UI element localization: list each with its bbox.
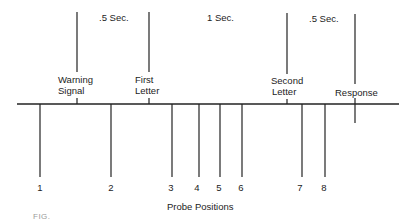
interval-label-1: .5 Sec.: [99, 12, 129, 23]
probe-label-1: 1: [37, 182, 42, 193]
figure-caption-fragment: FIG.: [33, 212, 51, 219]
timeline-lines: [0, 0, 415, 219]
probe-label-7: 7: [297, 182, 302, 193]
probe-label-8: 8: [321, 182, 326, 193]
timeline-diagram: .5 Sec. 1 Sec. .5 Sec. Warning Signal Fi…: [0, 0, 415, 219]
event-label-second-letter-line2: Letter: [272, 86, 296, 97]
event-label-response: Response: [335, 87, 378, 98]
event-label-first-letter-line2: Letter: [135, 85, 159, 96]
event-label-warning-line2: Signal: [58, 85, 84, 96]
event-label-first-letter-line1: First: [135, 74, 153, 85]
interval-label-2: 1 Sec.: [207, 12, 234, 23]
probe-label-3: 3: [168, 182, 173, 193]
probe-label-2: 2: [108, 182, 113, 193]
event-label-warning-line1: Warning: [58, 74, 93, 85]
probe-label-6: 6: [238, 182, 243, 193]
probe-label-4: 4: [194, 182, 199, 193]
probe-label-5: 5: [216, 182, 221, 193]
probe-positions-label: Probe Positions: [167, 201, 234, 212]
event-label-second-letter-line1: Second: [271, 75, 303, 86]
interval-label-3: .5 Sec.: [309, 13, 339, 24]
